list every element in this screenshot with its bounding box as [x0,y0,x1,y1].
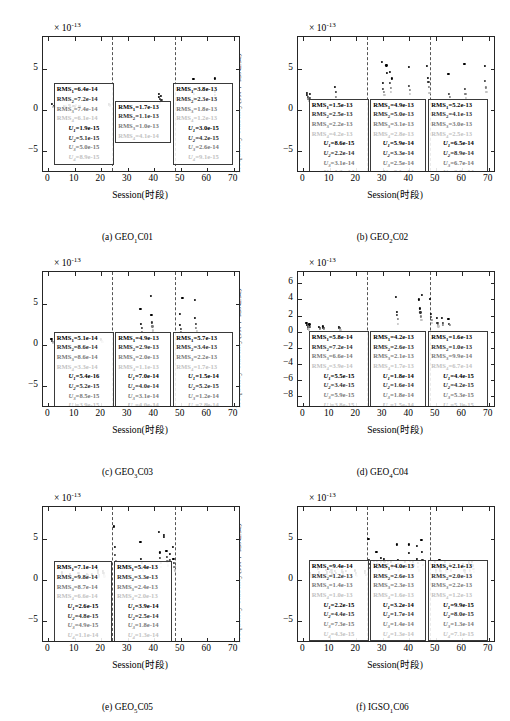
exponent-power: -13 [71,21,80,29]
exponent-power: -13 [326,256,335,264]
exponent-prefix: × 10 [309,492,326,503]
uncertainty-line: U1=8.6e-15 [312,139,366,149]
x-tick-label: 70 [483,174,492,183]
caption-prefix: (f) IGSO [356,702,390,712]
uncertainty-line: U3=1.8e-14 [117,621,169,631]
uncertainty-line: U1=1.5e-14 [176,372,230,382]
uncertainty-line: U2=1.6e-14 [373,381,423,391]
data-point [214,77,216,79]
uncertainty-line: U3=8.5e-15 [57,392,111,402]
x-tick-mark-top [489,507,490,511]
rms-line: RMS4=2.5e-13 [431,130,485,140]
x-tick-mark-top [330,37,331,41]
data-point [485,86,487,88]
rms-line: RMS2=2.6e-13 [373,572,423,582]
x-tick-mark-top [409,37,410,41]
data-point [383,94,385,96]
x-tick-label: 30 [377,644,386,653]
data-point [442,324,444,326]
y-tick-mark-right [236,345,240,346]
y-tick-mark [298,621,302,622]
x-tick-label: 60 [202,644,211,653]
x-tick-mark [207,168,208,172]
caption-suffix: C04 [393,467,409,477]
data-point [181,297,183,299]
y-tick-label: 5 [288,534,297,543]
rms-line: RMS3=8.7e-14 [57,583,109,593]
x-tick-mark-top [48,37,49,41]
rms-line: RMS3=8.6e-14 [57,353,111,363]
uncertainty-line: U1=3.0e-15 [176,124,230,134]
uncertainty-line: U2=5.2e-15 [176,382,230,392]
uncertainty-line: U3=3.1e-14 [312,159,366,169]
rms-line: RMS1=9.4e-14 [312,562,366,572]
x-tick-label: 40 [149,174,158,183]
data-point [419,307,421,309]
uncertainty-line: U4=4.3e-15 [312,630,366,640]
exponent-prefix: × 10 [54,22,71,33]
uncertainty-line: U1=7.0e-14 [118,372,168,382]
rms-line: RMS4=3.3e-14 [57,363,111,373]
scatter-plot-e: RMS1=7.1e-14RMS2=9.8e-14RMS3=8.7e-14RMS4… [42,506,240,642]
y-tick-mark [298,348,302,349]
panel-e: frequency stability(频率稳定度)frequency stab… [0,478,255,718]
x-tick-mark-top [234,272,235,276]
y-tick-mark-right [491,299,495,300]
uncertainty-line: U4=1.5e-14 [373,401,423,407]
y-axis-exponent: × 10-13 [54,21,81,33]
region-divider [175,507,176,641]
rms-line: RMS3=1.0e-13 [118,122,168,132]
x-tick-label: 0 [45,174,50,183]
x-tick-mark-top [48,272,49,276]
exponent-prefix: × 10 [309,257,326,268]
data-point [150,314,152,316]
uncertainty-line: U2=3.4e-15 [312,381,366,391]
rms-line: RMS2=2.0e-13 [431,572,485,582]
x-tick-mark [181,638,182,642]
x-axis-label: Session(时段) [297,422,493,436]
exponent-power: -13 [326,491,335,499]
rms-line: RMS2=4.1e-13 [431,110,485,120]
uncertainty-line: U3=5.3e-15 [431,391,485,401]
data-point [437,325,439,327]
x-tick-mark-top [489,272,490,276]
data-point [158,531,160,533]
data-point [395,310,397,312]
data-point [192,78,194,80]
x-tick-mark-top [101,272,102,276]
data-point [385,64,387,66]
rms-line: RMS4=1.7e-13 [373,362,423,372]
stats-box-region-3: RMS1=3.8e-13RMS2=2.3e-13RMS3=1.8e-13RMS4… [173,83,233,164]
scatter-plot-a: RMS1=6.4e-14RMS2=7.2e-14RMS3=7.4e-14RMS4… [42,36,240,172]
x-tick-mark-top [207,37,208,41]
x-tick-mark [489,403,490,407]
y-tick-mark [298,580,302,581]
x-axis-label: Session(时段) [297,187,493,201]
y-tick-label: 5 [33,64,42,73]
y-tick-mark [298,151,302,152]
x-tick-mark [303,403,304,407]
x-tick-mark-top [234,507,235,511]
uncertainty-line: U4=8.9e-15 [57,153,111,163]
x-tick-mark [75,168,76,172]
x-tick-label: 20 [351,409,360,418]
x-tick-label: 10 [69,409,78,418]
x-tick-mark-top [75,37,76,41]
rms-line: RMS3=3.1e-13 [373,120,423,130]
y-tick-mark-right [236,386,240,387]
data-point [420,319,422,321]
x-tick-mark-top [436,272,437,276]
panel-plot-area: frequency stability(频率稳定度)× 10-13RMS1=1.… [255,8,510,220]
rms-line: RMS4=1.1e-13 [118,363,168,373]
stats-box-region-1: RMS1=7.1e-14RMS2=9.8e-14RMS3=8.7e-14RMS4… [54,561,112,642]
rms-line: RMS1=3.8e-13 [176,85,230,95]
data-point [447,72,449,74]
rms-line: RMS1=1.6e-13 [431,333,485,343]
rms-line: RMS4=6.7e-14 [431,362,485,372]
stats-box-region-2: RMS1=4.9e-13RMS2=5.0e-13RMS3=3.1e-13RMS4… [370,99,426,172]
x-tick-mark [489,638,490,642]
rms-line: RMS3=1.8e-13 [176,105,230,115]
y-tick-label: −5 [28,615,42,624]
x-tick-mark [48,168,49,172]
x-tick-label: 20 [96,174,105,183]
